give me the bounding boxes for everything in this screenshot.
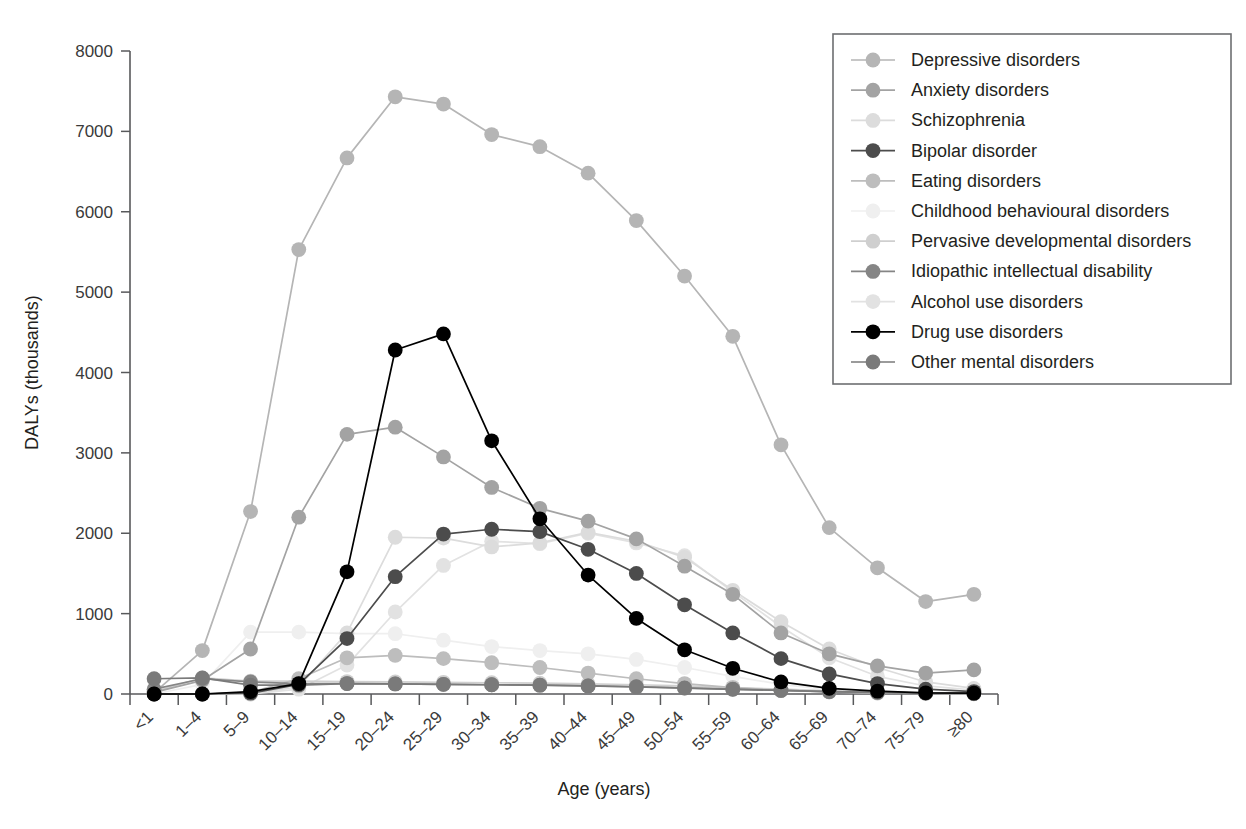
- data-point[interactable]: [195, 687, 210, 702]
- data-point[interactable]: [388, 677, 403, 692]
- data-point[interactable]: [195, 643, 210, 658]
- data-point[interactable]: [388, 530, 403, 545]
- data-point[interactable]: [822, 646, 837, 661]
- data-point[interactable]: [532, 643, 547, 658]
- data-point[interactable]: [918, 594, 933, 609]
- data-point[interactable]: [629, 680, 644, 695]
- data-point[interactable]: [581, 679, 596, 694]
- data-point[interactable]: [966, 662, 981, 677]
- data-point[interactable]: [966, 686, 981, 701]
- data-point[interactable]: [774, 651, 789, 666]
- data-point[interactable]: [532, 660, 547, 675]
- data-point[interactable]: [774, 626, 789, 641]
- data-point[interactable]: [725, 329, 740, 344]
- data-point[interactable]: [388, 569, 403, 584]
- data-point[interactable]: [436, 449, 451, 464]
- data-point[interactable]: [436, 97, 451, 112]
- data-point[interactable]: [581, 646, 596, 661]
- data-point[interactable]: [581, 166, 596, 181]
- data-point[interactable]: [870, 560, 885, 575]
- data-point[interactable]: [870, 684, 885, 699]
- data-point[interactable]: [532, 678, 547, 693]
- data-point[interactable]: [870, 658, 885, 673]
- data-point[interactable]: [243, 684, 258, 699]
- data-point[interactable]: [629, 611, 644, 626]
- data-point[interactable]: [677, 681, 692, 696]
- data-point[interactable]: [436, 651, 451, 666]
- data-point[interactable]: [340, 564, 355, 579]
- data-point[interactable]: [725, 661, 740, 676]
- data-point[interactable]: [774, 437, 789, 452]
- data-point[interactable]: [388, 343, 403, 358]
- data-point[interactable]: [725, 626, 740, 641]
- data-point[interactable]: [581, 568, 596, 583]
- data-point[interactable]: [291, 625, 306, 640]
- data-point[interactable]: [484, 433, 499, 448]
- data-point[interactable]: [484, 480, 499, 495]
- data-point[interactable]: [581, 666, 596, 681]
- data-point[interactable]: [532, 511, 547, 526]
- data-point[interactable]: [436, 633, 451, 648]
- data-point[interactable]: [822, 520, 837, 535]
- data-point[interactable]: [725, 682, 740, 697]
- data-point[interactable]: [677, 269, 692, 284]
- data-point[interactable]: [484, 522, 499, 537]
- data-point[interactable]: [484, 127, 499, 142]
- data-point[interactable]: [147, 687, 162, 702]
- data-point[interactable]: [291, 242, 306, 257]
- x-tick-label: 1–4: [172, 707, 205, 740]
- data-point[interactable]: [484, 677, 499, 692]
- data-point[interactable]: [677, 597, 692, 612]
- data-point[interactable]: [532, 524, 547, 539]
- data-point[interactable]: [725, 587, 740, 602]
- data-point[interactable]: [340, 631, 355, 646]
- data-point[interactable]: [629, 652, 644, 667]
- data-point[interactable]: [388, 89, 403, 104]
- data-point[interactable]: [340, 150, 355, 165]
- data-point[interactable]: [532, 139, 547, 154]
- legend-swatch-dot: [866, 355, 881, 370]
- y-axis-title: DALYs (thousands): [22, 295, 42, 450]
- data-point[interactable]: [822, 681, 837, 696]
- series-line: [154, 529, 974, 694]
- data-point[interactable]: [629, 566, 644, 581]
- data-point[interactable]: [677, 642, 692, 657]
- data-point[interactable]: [677, 660, 692, 675]
- data-point[interactable]: [340, 676, 355, 691]
- data-point[interactable]: [436, 558, 451, 573]
- data-point[interactable]: [243, 642, 258, 657]
- data-point[interactable]: [388, 626, 403, 641]
- legend: Depressive disordersAnxiety disordersSch…: [833, 34, 1231, 384]
- data-point[interactable]: [436, 677, 451, 692]
- data-point[interactable]: [484, 639, 499, 654]
- data-point[interactable]: [243, 504, 258, 519]
- data-point[interactable]: [629, 531, 644, 546]
- legend-swatch-dot: [866, 143, 881, 158]
- data-point[interactable]: [340, 427, 355, 442]
- data-point[interactable]: [195, 671, 210, 686]
- y-tick-label: 0: [104, 685, 113, 704]
- data-point[interactable]: [629, 213, 644, 228]
- data-point[interactable]: [581, 514, 596, 529]
- data-point[interactable]: [147, 671, 162, 686]
- series-schizophrenia: [147, 525, 982, 701]
- data-point[interactable]: [581, 542, 596, 557]
- data-point[interactable]: [388, 648, 403, 663]
- data-point[interactable]: [436, 327, 451, 342]
- data-point[interactable]: [774, 675, 789, 690]
- data-point[interactable]: [822, 667, 837, 682]
- data-point[interactable]: [918, 666, 933, 681]
- data-point[interactable]: [677, 559, 692, 574]
- data-point[interactable]: [436, 527, 451, 542]
- data-point[interactable]: [484, 540, 499, 555]
- data-point[interactable]: [484, 655, 499, 670]
- data-point[interactable]: [966, 587, 981, 602]
- data-point[interactable]: [291, 510, 306, 525]
- legend-item-label: Other mental disorders: [911, 352, 1094, 372]
- data-point[interactable]: [340, 650, 355, 665]
- data-point[interactable]: [291, 676, 306, 691]
- data-point[interactable]: [388, 420, 403, 435]
- y-tick-label: 3000: [75, 444, 113, 463]
- data-point[interactable]: [918, 685, 933, 700]
- data-point[interactable]: [388, 605, 403, 620]
